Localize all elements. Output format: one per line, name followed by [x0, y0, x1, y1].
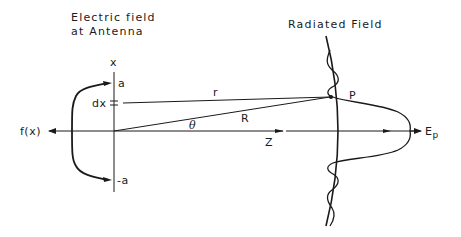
label-dx: dx [92, 97, 107, 110]
label-r: r [213, 86, 218, 99]
aperture-top-arrowhead [103, 81, 112, 86]
title-electric-field-line1: Electric field [71, 11, 156, 24]
label-P: P [349, 89, 356, 102]
label-x-axis: x [110, 56, 117, 69]
label-E-subscript: p [432, 130, 438, 140]
label-theta: θ [189, 119, 196, 132]
z-axis-arrowhead [275, 129, 284, 133]
aperture-bottom-arrowhead [103, 177, 112, 182]
label-Ep: Ep [425, 125, 439, 142]
label-R: R [241, 112, 249, 125]
ep-arrow-mid [383, 129, 391, 133]
label-a-top: a [118, 77, 125, 90]
label-a-bottom: -a [117, 174, 129, 187]
label-fx: f(x) [20, 125, 41, 138]
antenna-radiation-diagram [0, 0, 461, 237]
title-radiated-field: Radiated Field [288, 18, 383, 31]
label-Z: Z [265, 136, 273, 149]
radiation-pattern-curve [327, 50, 410, 226]
point-p [329, 95, 333, 99]
title-electric-field-line2: at Antenna [71, 25, 144, 38]
